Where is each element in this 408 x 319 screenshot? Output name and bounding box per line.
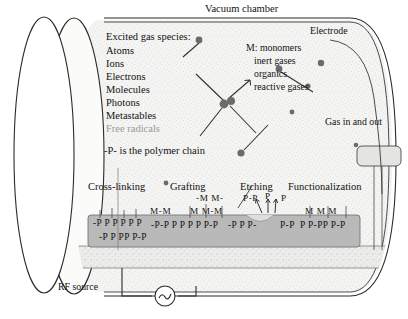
species-item-metastables: Metastables <box>106 110 156 121</box>
vacuum-chamber-label: Vacuum chamber <box>205 3 278 14</box>
species-item-molecules: Molecules <box>106 84 150 95</box>
species-heading: Excited gas species: <box>106 31 191 42</box>
species-item-electrons: Electrons <box>106 71 146 82</box>
chain-crosslink-top: -P P P P P P <box>93 219 142 229</box>
monomer-heading: M: monomers <box>246 43 301 53</box>
monomer-item-inert-gases: inert gases <box>254 56 296 66</box>
grafting-m-upper: -M M- <box>196 194 224 204</box>
rf-source-label: RF source <box>58 282 98 292</box>
gas-port-block <box>357 146 401 166</box>
species-item-ions: Ions <box>106 58 124 69</box>
diagram-canvas <box>0 0 408 319</box>
cylinder-front-rim <box>14 17 74 293</box>
polymer-chain-legend: -P- is the polymer chain <box>104 145 205 156</box>
process-label-functionalization: Functionalization <box>288 181 362 192</box>
electrode-plate <box>70 246 400 268</box>
process-label-grafting: Grafting <box>170 181 206 192</box>
functionalization-m-groups: M M M <box>305 207 337 217</box>
etching-eject-mid: P <box>265 192 271 202</box>
species-item-atoms: Atoms <box>106 45 134 56</box>
etching-eject-upper: P-P <box>243 194 258 204</box>
etching-eject-right: P <box>281 194 287 204</box>
monomer-item-reactive-gases: reactive gases <box>254 82 309 92</box>
species-item-photons: Photons <box>106 97 140 108</box>
species-item-free-radicals: Free radicals <box>106 123 160 134</box>
chain-functionalization: P P-PP P-P <box>300 221 346 231</box>
chain-etching-right: P-P <box>280 221 295 231</box>
gas-in-out-label: Gas in and out <box>325 117 382 127</box>
chain-crosslink-bottom: -P P PP P-P <box>99 233 147 243</box>
chain-grafting: -P-P P P P P P-P <box>151 221 218 231</box>
chain-etching-left: -P P P- <box>228 221 257 231</box>
monomer-item-organics: organics <box>254 69 287 79</box>
process-label-cross-linking: Cross-linking <box>88 181 145 192</box>
electrode-label: Electrode <box>310 26 348 36</box>
grafting-m-lower-left: M-M <box>150 207 171 217</box>
grafting-m-lower-right: M M-M <box>190 207 223 217</box>
plasma-diagram: Vacuum chamber Electrode Gas in and out … <box>0 0 408 319</box>
